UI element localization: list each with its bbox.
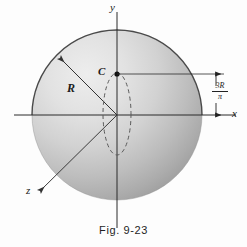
radius-label: R: [67, 82, 75, 94]
dimension-numerator: 3R: [205, 82, 235, 91]
sphere-centroid-diagram: [0, 0, 247, 247]
dimension-denominator: π: [205, 92, 235, 101]
dimension-fraction-label: 3R π: [205, 82, 235, 101]
figure-container: y x z R C 3R π Fig. 9-23: [0, 0, 247, 247]
x-axis-label: x: [232, 108, 237, 119]
y-axis-label: y: [110, 2, 115, 13]
figure-caption: Fig. 9-23: [0, 224, 247, 236]
z-axis-label: z: [26, 185, 30, 196]
centroid-label: C: [98, 66, 105, 77]
